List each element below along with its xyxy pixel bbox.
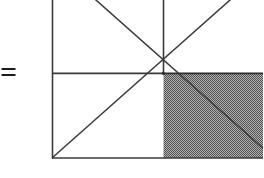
center-point [162,72,165,75]
shaded-lower-right-quadrant [164,74,264,159]
geometry-figure: = [0,0,263,178]
square-quadrant-svg [0,0,263,178]
